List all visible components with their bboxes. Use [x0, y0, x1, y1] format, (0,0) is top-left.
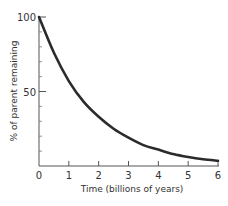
x-tick-label: 0 — [36, 170, 42, 181]
decay-chart: 10050 0123456 Time (billions of years) %… — [0, 0, 228, 206]
y-tick-label: 100 — [17, 12, 36, 23]
y-axis-title: % of parent remaining — [9, 41, 19, 142]
x-ticks: 0123456 — [36, 161, 221, 181]
y-tick-label: 50 — [23, 87, 36, 98]
x-tick-label: 2 — [95, 170, 101, 181]
x-tick-label: 1 — [66, 170, 72, 181]
x-tick-label: 5 — [185, 170, 191, 181]
x-tick-label: 3 — [125, 170, 131, 181]
x-tick-label: 6 — [215, 170, 221, 181]
decay-curve — [39, 17, 218, 161]
x-tick-label: 4 — [155, 170, 161, 181]
x-axis-title: Time (billions of years) — [80, 184, 184, 194]
axes — [39, 17, 219, 166]
y-ticks: 10050 — [17, 12, 46, 151]
